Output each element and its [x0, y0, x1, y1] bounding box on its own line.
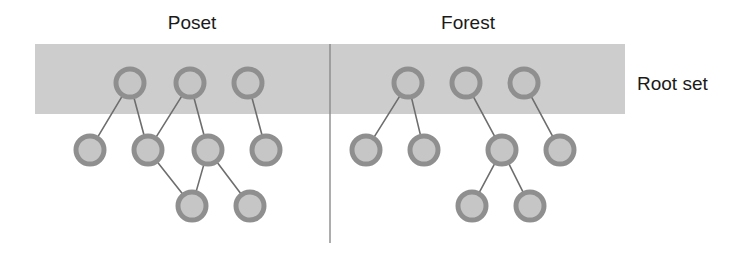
node-p-m4	[252, 136, 280, 164]
node-circle	[236, 192, 264, 220]
node-circle	[352, 136, 380, 164]
node-p-m1	[76, 136, 104, 164]
edge-forest-f-m3-f-b1	[479, 164, 494, 193]
node-p-t2	[176, 69, 204, 97]
node-f-m1	[352, 136, 380, 164]
node-p-m3	[194, 136, 222, 164]
panel-title-poset: Poset	[168, 12, 217, 33]
panel-title-forest: Forest	[441, 12, 496, 33]
node-circle	[546, 136, 574, 164]
node-p-b2	[236, 192, 264, 220]
node-circle	[488, 136, 516, 164]
node-circle	[194, 136, 222, 164]
edge-poset-p-m3-p-b2	[217, 162, 240, 193]
node-circle	[452, 69, 480, 97]
diagram-canvas: PosetForestRoot set	[0, 0, 746, 259]
node-circle	[76, 136, 104, 164]
node-circle	[394, 69, 422, 97]
node-p-t1	[116, 69, 144, 97]
node-f-m3	[488, 136, 516, 164]
node-circle	[252, 136, 280, 164]
node-circle	[176, 69, 204, 97]
node-f-t3	[510, 69, 538, 97]
node-circle	[510, 69, 538, 97]
edge-forest-f-m3-f-b2	[509, 164, 523, 192]
node-f-b1	[458, 192, 486, 220]
edge-poset-p-m3-p-b1	[196, 165, 203, 191]
node-circle	[516, 192, 544, 220]
node-f-b2	[516, 192, 544, 220]
node-circle	[116, 69, 144, 97]
node-f-t1	[394, 69, 422, 97]
node-circle	[234, 69, 262, 97]
node-circle	[178, 192, 206, 220]
node-p-t3	[234, 69, 262, 97]
node-p-b1	[178, 192, 206, 220]
node-circle	[458, 192, 486, 220]
node-circle	[410, 136, 438, 164]
node-circle	[134, 136, 162, 164]
node-f-m4	[546, 136, 574, 164]
node-f-t2	[452, 69, 480, 97]
poset-forest-diagram: PosetForestRoot set	[0, 0, 746, 259]
root-set-label: Root set	[637, 73, 708, 94]
node-p-m2	[134, 136, 162, 164]
edge-poset-p-m2-p-b1	[158, 162, 183, 194]
node-f-m2	[410, 136, 438, 164]
